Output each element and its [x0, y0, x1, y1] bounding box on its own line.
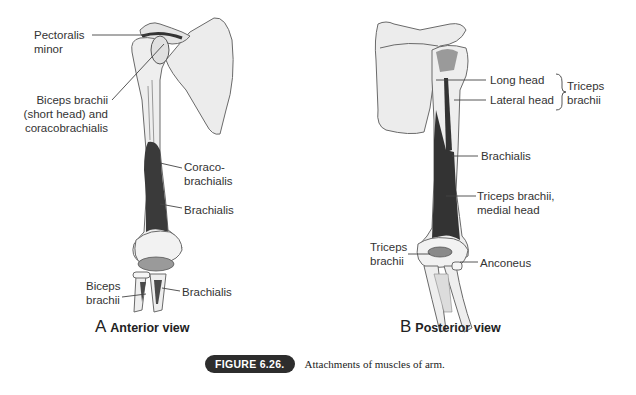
label-line: Lateral head [490, 93, 554, 107]
label-pectoralis-minor: Pectoralis minor [34, 28, 85, 56]
panel-title-text: Anterior view [110, 321, 189, 335]
label-line: Triceps brachii, [477, 189, 555, 203]
label-triceps-brachii-insertion: Triceps brachii [370, 240, 407, 268]
label-line: Anconeus [480, 256, 531, 270]
label-lateral-head: Lateral head [490, 93, 554, 107]
label-brachialis-posterior: Brachialis [481, 149, 531, 163]
figure-caption: FIGURE 6.26. Attachments of muscles of a… [205, 355, 445, 373]
label-line: minor [34, 42, 85, 56]
label-triceps-brachii-group: Triceps brachii [567, 79, 604, 107]
panel-b-title: BPosterior view [400, 317, 501, 337]
figure-caption-text: Attachments of muscles of arm. [305, 358, 445, 370]
label-line: (short head) and [14, 107, 108, 121]
label-line: brachii [86, 293, 121, 307]
panel-letter: B [400, 317, 411, 336]
label-line: Biceps [86, 279, 121, 293]
panel-title-text: Posterior view [415, 321, 500, 335]
label-biceps-short-head-coracobrachialis: Biceps brachii (short head) and coracobr… [14, 93, 108, 135]
label-anconeus: Anconeus [480, 256, 531, 270]
label-coracobrachialis: Coraco- brachialis [184, 160, 233, 188]
label-line: medial head [477, 203, 555, 217]
label-line: Brachialis [184, 203, 234, 217]
label-line: Brachialis [481, 149, 531, 163]
label-line: Coraco- [184, 160, 233, 174]
label-line: Long head [490, 73, 544, 87]
panel-letter: A [95, 317, 106, 336]
label-brachialis-upper: Brachialis [184, 203, 234, 217]
label-line: Biceps brachii [14, 93, 108, 107]
label-line: brachialis [184, 174, 233, 188]
label-line: coracobrachialis [14, 121, 108, 135]
label-line: Brachialis [182, 285, 232, 299]
panel-a-title: AAnterior view [95, 317, 190, 337]
label-line: Pectoralis [34, 28, 85, 42]
label-line: brachii [567, 93, 604, 107]
label-line: brachii [370, 254, 407, 268]
posterior-view-illustration [375, 22, 472, 332]
label-line: Triceps [567, 79, 604, 93]
label-triceps-medial-head: Triceps brachii, medial head [477, 189, 555, 217]
label-long-head: Long head [490, 73, 544, 87]
figure-number-badge: FIGURE 6.26. [205, 355, 295, 373]
label-brachialis-lower: Brachialis [182, 285, 232, 299]
label-line: Triceps [370, 240, 407, 254]
label-biceps-brachii: Biceps brachii [86, 279, 121, 307]
